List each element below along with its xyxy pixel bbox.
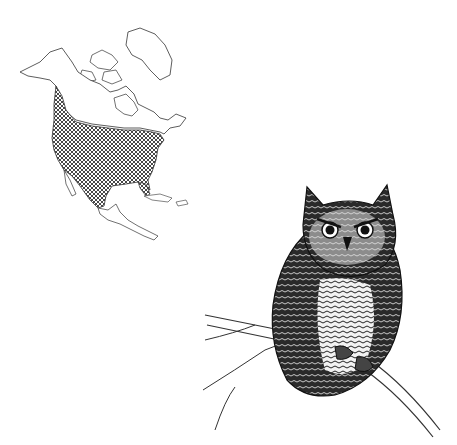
north-america-map-graphic <box>0 0 220 250</box>
owl-on-branch-graphic <box>195 175 457 445</box>
owl-illustration <box>195 175 457 445</box>
range-map <box>0 0 220 250</box>
